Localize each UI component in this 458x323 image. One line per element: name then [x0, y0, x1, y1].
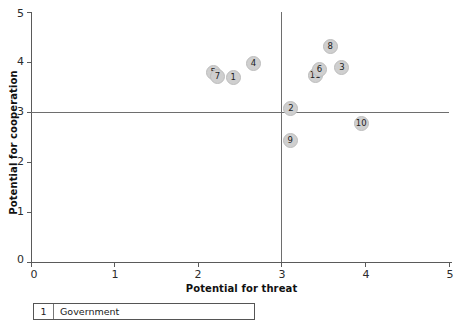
- reference-line-vertical: [281, 12, 282, 262]
- x-tick-label-5: 5: [447, 269, 454, 281]
- x-tick-4: [365, 262, 366, 267]
- data-point-2: 2: [283, 101, 298, 116]
- x-tick-2: [198, 262, 199, 267]
- legend-key: 1: [34, 304, 54, 319]
- x-tick-5: [449, 262, 450, 267]
- legend-label: Government: [54, 304, 254, 319]
- y-tick-label-5: 5: [0, 8, 24, 20]
- data-point-4: 4: [246, 56, 261, 71]
- data-point-9: 9: [283, 133, 298, 148]
- data-point-6: 6: [312, 62, 327, 77]
- y-tick-label-0: 0: [0, 254, 24, 266]
- data-point-10: 10: [354, 116, 369, 131]
- x-tick-1: [114, 262, 115, 267]
- y-tick-label-4: 4: [0, 56, 24, 68]
- x-tick-3: [281, 262, 282, 267]
- legend-table: 1Government: [33, 303, 255, 320]
- x-tick-label-0: 0: [31, 269, 38, 281]
- reference-line-horizontal: [31, 112, 449, 113]
- x-axis-title: Potential for threat: [31, 283, 452, 294]
- data-point-1: 1: [226, 70, 241, 85]
- x-tick-label-3: 3: [279, 269, 286, 281]
- x-axis-line: [31, 262, 452, 263]
- x-tick-label-1: 1: [112, 269, 119, 281]
- y-tick-0: [27, 262, 32, 263]
- x-tick-label-4: 4: [363, 269, 370, 281]
- data-point-3: 3: [334, 60, 349, 75]
- plot-area: 5714291168310: [31, 12, 449, 262]
- data-point-8: 8: [323, 39, 338, 54]
- y-axis-title: Potential for cooperation: [8, 68, 19, 218]
- x-tick-label-2: 2: [195, 269, 202, 281]
- data-point-7: 7: [210, 69, 225, 84]
- scatter-chart: 0 1 2 3 4 5 0 1 2 3 4 5 5714291168310 Po…: [0, 0, 458, 295]
